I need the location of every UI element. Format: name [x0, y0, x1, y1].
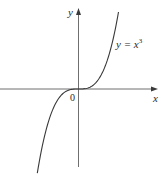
- y-axis-label: y: [67, 6, 73, 18]
- origin-label: 0: [70, 92, 75, 103]
- cubic-curve: [37, 12, 118, 173]
- curve-label: y = x3: [115, 37, 143, 50]
- x-axis-arrow-icon: [151, 87, 158, 92]
- y-axis-arrow-icon: [76, 8, 81, 15]
- x-axis-label: x: [152, 92, 158, 104]
- cubic-function-graph: y x 0 y = x3: [0, 0, 166, 184]
